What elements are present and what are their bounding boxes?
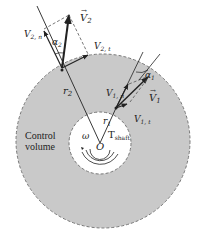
v2n-label: V2, n: [24, 29, 42, 40]
alpha2-label: α2: [52, 37, 62, 48]
omega-label: ω: [82, 131, 90, 141]
v2t-label: V2, t: [94, 41, 111, 52]
vector-arrow-accent: →: [81, 7, 87, 15]
vector-arrow-accent: →: [150, 87, 156, 95]
control-volume-label-2: volume: [25, 141, 56, 152]
control-volume-diagram: V2 → V2, n α2 V2, t r2 α1 V1, n V1 → V1,…: [0, 0, 203, 239]
origin-label: O: [96, 141, 104, 152]
control-volume-label: Control: [25, 130, 56, 141]
